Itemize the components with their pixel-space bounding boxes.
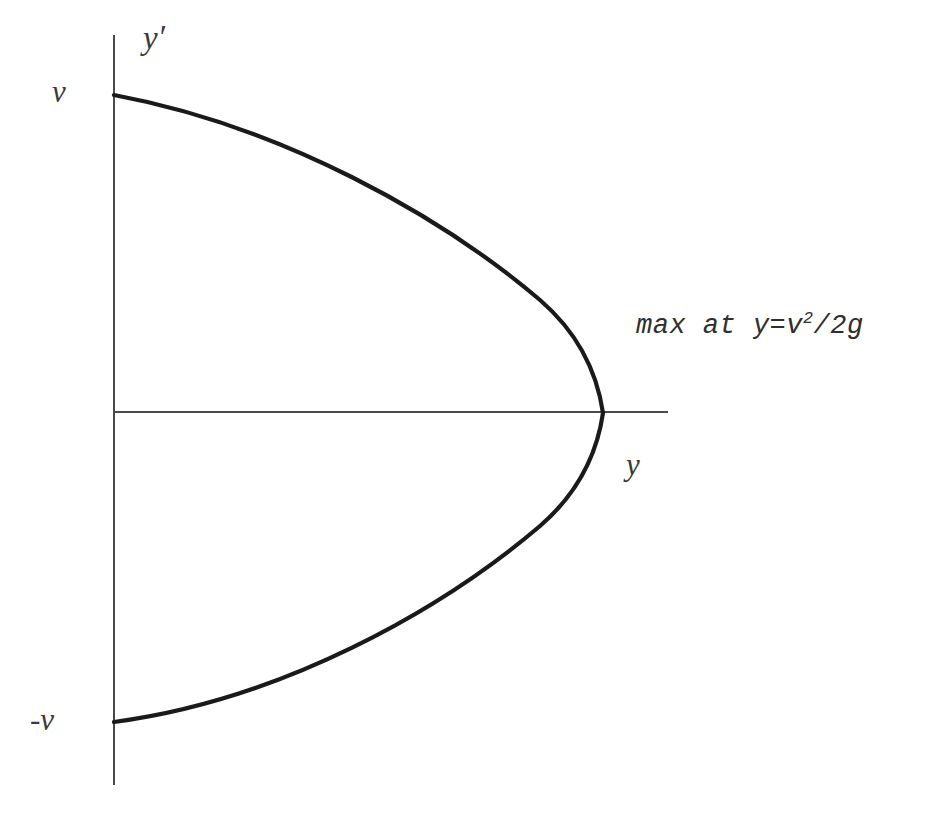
y-axis-label: y′ — [143, 22, 167, 55]
parabola-upper-branch — [114, 95, 603, 413]
tick-label-negative-v: -v — [30, 704, 54, 735]
x-axis-label: y — [626, 449, 640, 480]
max-annotation: max at y=v2/2g — [636, 313, 864, 340]
parabola-lower-branch — [114, 413, 603, 722]
tick-label-positive-v: v — [52, 76, 66, 107]
y-axis-label-text: y — [143, 20, 158, 56]
prime-mark: ′ — [160, 19, 167, 55]
figure-canvas: y′ v -v y max at y=v2/2g — [0, 0, 948, 824]
annotation-prefix: max at y=v — [636, 311, 803, 341]
annotation-exponent: 2 — [803, 309, 814, 328]
plot-area — [0, 0, 948, 824]
annotation-suffix: /2g — [814, 311, 864, 341]
